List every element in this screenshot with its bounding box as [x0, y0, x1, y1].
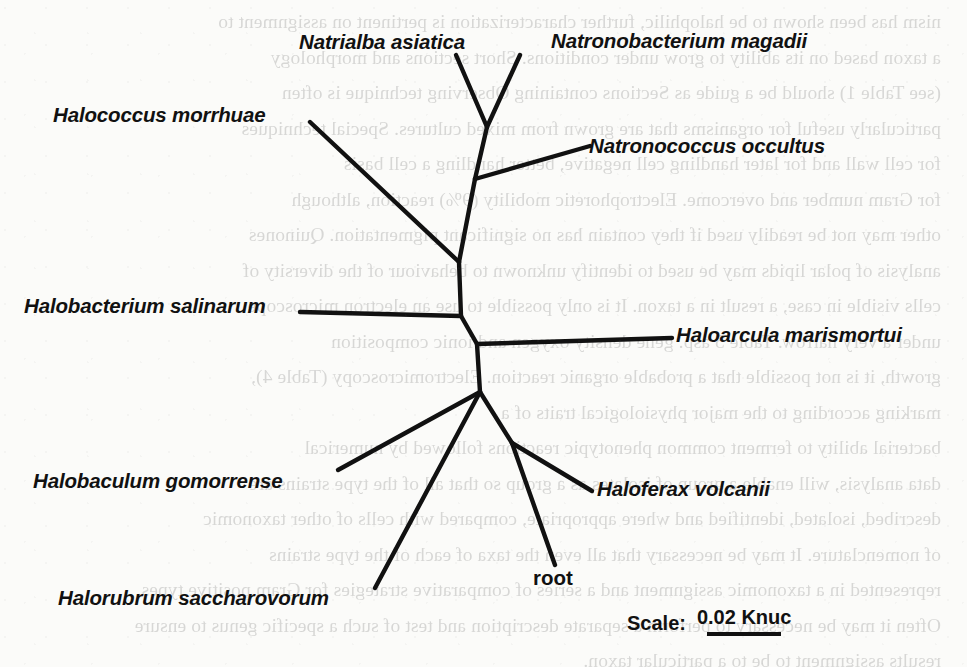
branch-node-f-to-node-g — [480, 392, 512, 443]
branch-natronobacterium-magadii — [487, 55, 520, 127]
leaf-label-halobaculum-gomorrense: Halobaculum gomorrense — [33, 469, 283, 493]
leaf-label-natrialba-asiatica: Natrialba asiatica — [299, 30, 465, 54]
scale-bar-value: 0.02 Knuc — [697, 606, 791, 628]
branch-natronococcus-occultus — [475, 146, 590, 179]
leaf-label-halorubrum-saccharovorum: Halorubrum saccharovorum — [58, 586, 329, 610]
branch-node-b-to-node-c — [459, 179, 475, 262]
scale-bar-rule — [707, 632, 781, 636]
leaf-label-halobacterium-salinarum: Halobacterium salinarum — [24, 294, 266, 318]
scale-bar-measure: 0.02 Knuc — [697, 606, 791, 636]
branch-halobacterium-salinarum — [300, 312, 461, 316]
leaf-label-natronobacterium-magadii: Natronobacterium magadii — [551, 29, 807, 53]
branch-halococcus-morrhuae — [310, 122, 459, 262]
branch-haloferax-volcanii — [512, 443, 592, 491]
branch-root — [512, 443, 555, 565]
leaf-label-haloarcula-marismortui: Haloarcula marismortui — [676, 323, 902, 347]
branch-natrialba-asiatica — [456, 55, 487, 127]
leaf-label-natronococcus-occultus: Natronococcus occultus — [589, 134, 825, 158]
branch-node-c-to-node-d — [459, 262, 461, 316]
node-label-root: root — [533, 566, 573, 590]
branch-node-e-to-node-f — [477, 344, 480, 392]
leaf-label-haloferax-volcanii: Haloferax volcanii — [597, 477, 770, 501]
phylogenetic-tree-figure: nism has been shown to be halophilic, fu… — [0, 0, 967, 667]
branch-node-a-to-node-b — [475, 127, 487, 179]
branch-haloarcula-marismortui — [477, 338, 672, 344]
branch-node-d-to-node-e — [461, 316, 477, 344]
scale-bar: Scale: 0.02 Knuc — [627, 606, 791, 636]
leaf-label-halococcus-morrhuae: Halococcus morrhuae — [53, 103, 265, 127]
scale-bar-caption: Scale: — [627, 613, 686, 636]
